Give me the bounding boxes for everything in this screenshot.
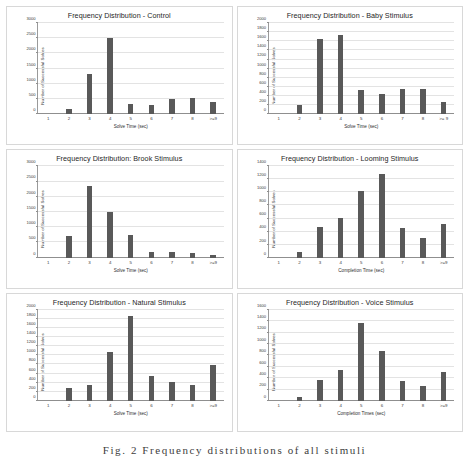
bar xyxy=(400,228,406,257)
bar-slot xyxy=(162,166,183,257)
x-axis-title: Solve Time (sec) xyxy=(269,124,455,129)
bar xyxy=(297,105,303,115)
y-tick-label: 1200 xyxy=(257,53,266,57)
x-axis-title: Completion Time (sec) xyxy=(269,268,455,273)
bar xyxy=(149,376,155,401)
x-axis-labels: 12345678>=9 xyxy=(38,403,224,408)
x-tick-label: 2 xyxy=(289,403,310,408)
bar-slot xyxy=(162,23,183,114)
bar-slot xyxy=(433,166,454,257)
bar-slot xyxy=(203,166,224,257)
bar xyxy=(420,238,426,258)
chart-panel-5: Frequency Distribution - Natural Stimulu… xyxy=(6,293,233,432)
x-tick-label: 7 xyxy=(392,403,413,408)
bar-slot xyxy=(392,310,413,401)
x-tick-label: 1 xyxy=(38,116,59,121)
bar-slot xyxy=(141,23,162,114)
bar-slot xyxy=(351,23,372,114)
plot-canvas: 0200400600800100012001400160018002000123… xyxy=(268,23,455,114)
bar xyxy=(297,397,303,401)
bar-slot xyxy=(141,166,162,257)
bar xyxy=(210,102,216,114)
y-tick-label: 1600 xyxy=(257,304,266,308)
bar-slot xyxy=(310,166,331,257)
x-tick-label: 5 xyxy=(351,403,372,408)
plot-area: 0200400600800100012001400160012345678>=9… xyxy=(268,310,455,401)
y-tick-label: 1500 xyxy=(26,206,35,210)
x-tick-label: 8 xyxy=(413,260,434,265)
bar-series xyxy=(269,310,455,401)
bar xyxy=(87,385,93,401)
y-tick-label: 2500 xyxy=(26,32,35,36)
bar-slot xyxy=(120,166,141,257)
x-axis-title: Solve Time (sec) xyxy=(38,268,224,273)
plot-canvas: 05001000150020002500300012345678>=9Solve… xyxy=(37,166,224,257)
y-tick-label: 3000 xyxy=(26,17,35,21)
y-tick-label: 1600 xyxy=(257,35,266,39)
bar xyxy=(400,381,406,401)
y-tick-label: 1800 xyxy=(257,26,266,30)
bar-slot xyxy=(413,23,434,114)
y-tick-label: 2000 xyxy=(26,304,35,308)
bar-series xyxy=(269,23,455,114)
x-axis-title: Completion Times (sec) xyxy=(269,411,455,416)
x-tick-label: 3 xyxy=(310,403,331,408)
y-tick-label: 1000 xyxy=(26,221,35,225)
bar-series xyxy=(38,166,224,257)
y-tick-label: 0 xyxy=(264,252,266,256)
bar-slot xyxy=(289,166,310,257)
chart-title: Frequency Distribution - Natural Stimulu… xyxy=(7,298,232,307)
bar-slot xyxy=(59,310,80,401)
bar xyxy=(358,191,364,258)
x-axis-labels: 12345678>= 9 xyxy=(269,116,455,121)
bar xyxy=(87,186,93,258)
x-tick-label: >= 9 xyxy=(433,116,454,121)
y-tick-label: 200 xyxy=(29,386,36,390)
x-tick-label: 6 xyxy=(372,260,393,265)
bar xyxy=(317,380,323,401)
bar-series xyxy=(38,23,224,114)
y-tick-label: 800 xyxy=(259,72,266,76)
bar-slot xyxy=(269,23,290,114)
x-tick-label: 2 xyxy=(59,403,80,408)
chart-title: Frequency Distribution - Baby Stimulus xyxy=(238,11,463,20)
x-tick-label: 7 xyxy=(162,403,183,408)
bar xyxy=(358,323,364,401)
x-tick-label: 2 xyxy=(289,116,310,121)
y-tick-label: 3000 xyxy=(26,160,35,164)
y-tick-label: 400 xyxy=(259,372,266,376)
bar xyxy=(379,351,385,401)
bar-slot xyxy=(269,310,290,401)
y-tick-label: 0 xyxy=(33,108,35,112)
plot-canvas: 020040060080010001200140012345678>=9Comp… xyxy=(268,166,455,257)
y-tick-label: 1500 xyxy=(26,63,35,67)
chart-title: Frequency Distribution: Brook Stimulus xyxy=(7,154,232,163)
x-axis-title: Solve Time (sec) xyxy=(38,411,224,416)
bar xyxy=(317,39,323,115)
bar-slot xyxy=(392,23,413,114)
x-tick-label: 3 xyxy=(79,403,100,408)
x-tick-label: 5 xyxy=(120,116,141,121)
x-tick-label: 3 xyxy=(79,260,100,265)
y-tick-label: 400 xyxy=(29,377,36,381)
y-tick-label: 0 xyxy=(264,395,266,399)
chart-title: Frequency Distribution - Control xyxy=(7,11,232,20)
bar-slot xyxy=(38,310,59,401)
plot-area: 0200400600800100012001400160018002000123… xyxy=(268,23,455,114)
bar xyxy=(338,370,344,401)
y-tick-label: 600 xyxy=(259,81,266,85)
y-tick-label: 0 xyxy=(33,395,35,399)
chart-grid: Frequency Distribution - ControlNumber o… xyxy=(4,4,465,434)
bar xyxy=(190,98,196,114)
bar xyxy=(379,94,385,114)
y-tick-label: 1400 xyxy=(26,331,35,335)
bar xyxy=(149,252,155,258)
bar-slot xyxy=(182,310,203,401)
x-tick-label: >=9 xyxy=(203,116,224,121)
bar xyxy=(420,89,426,114)
y-tick-label: 1400 xyxy=(257,160,266,164)
bar-slot xyxy=(392,166,413,257)
bar xyxy=(400,89,406,114)
bar xyxy=(66,236,72,257)
x-tick-label: 5 xyxy=(351,260,372,265)
